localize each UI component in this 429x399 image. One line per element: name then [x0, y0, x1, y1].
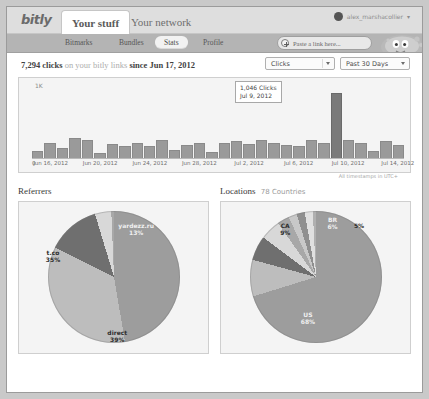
bar[interactable] — [256, 140, 267, 159]
bar[interactable] — [194, 143, 205, 159]
referrers-title-row: Referrers — [18, 186, 209, 201]
select-divider — [322, 59, 323, 68]
bar[interactable] — [219, 143, 230, 159]
clicks-summary-since: since Jun 17, 2012 — [129, 60, 195, 70]
bar[interactable] — [44, 143, 55, 159]
locations-title-row: Locations 78 Countries — [220, 186, 411, 201]
bar[interactable] — [331, 93, 342, 159]
pie-slice-label: 5% — [354, 222, 364, 230]
tooltip-date: Jul 9, 2012 — [240, 92, 277, 100]
pie-slice-label: US 68% — [301, 311, 315, 326]
clicks-bar-chart[interactable]: 1K 0 Jun 16, 2012 Jun 20, 2012 Jun 24, 2… — [18, 77, 411, 173]
bar[interactable] — [268, 143, 279, 159]
bar-chart-plot-area — [32, 90, 404, 159]
chart-tooltip: 1,046 Clicks Jul 9, 2012 — [235, 81, 282, 103]
bar[interactable] — [156, 140, 167, 159]
pie-slice-pct: 13% — [129, 229, 143, 236]
pie-slice-name: t.co — [47, 249, 60, 256]
pie-slice-label: CA 9% — [280, 222, 290, 237]
x-tick-label: Jul 14, 2012 — [381, 160, 414, 166]
timezone-note: All timestamps in UTC+ — [339, 173, 398, 179]
clicks-count: 7,294 clicks — [21, 60, 63, 70]
bar[interactable] — [393, 145, 404, 159]
date-range-select-value: Past 30 Days — [346, 60, 388, 68]
bitly-pufferfish-mascot-icon — [372, 34, 422, 53]
referrers-pie-panel[interactable]: direct 39% t.co 35% yardezz.ru 13% — [18, 201, 209, 354]
timezone-note-row: All timestamps in UTC+ — [18, 173, 411, 184]
x-tick-label: Jun 28, 2012 — [182, 160, 217, 166]
referrers-section: Referrers direct 39% t.co 35% yardezz.ru… — [18, 186, 209, 354]
x-tick-label: Jul 10, 2012 — [332, 160, 365, 166]
bar[interactable] — [181, 145, 192, 159]
chevron-down-icon: ▾ — [407, 13, 410, 20]
date-range-select[interactable]: Past 30 Days — [340, 57, 410, 70]
bar[interactable] — [306, 140, 317, 159]
plus-circle-icon — [281, 39, 289, 47]
x-axis-baseline — [32, 158, 404, 159]
clicks-summary-middle: on your bitly links — [65, 60, 128, 70]
pie-slice-name: BR — [328, 216, 337, 223]
metric-select[interactable]: Clicks — [265, 57, 335, 70]
pie-slice-pct: 39% — [110, 336, 124, 343]
locations-section: Locations 78 Countries US 68% CA 9% BR 6… — [220, 186, 411, 354]
bitly-logo[interactable]: bitly — [21, 12, 51, 27]
app-window: bitly Your stuff Your network alex_marsh… — [6, 6, 423, 393]
bar[interactable] — [243, 144, 254, 159]
metric-select-value: Clicks — [271, 60, 290, 68]
sidebar-item-bitmarks[interactable]: Bitmarks — [65, 38, 93, 47]
paste-link-input[interactable]: Paste a link here... — [277, 36, 372, 50]
tab-your-stuff[interactable]: Your stuff — [61, 10, 130, 34]
x-tick-label: Jun 20, 2012 — [83, 160, 118, 166]
pie-slice-label: t.co 35% — [46, 249, 60, 264]
tooltip-value: 1,046 Clicks — [240, 84, 277, 92]
pie-slice-label: direct 39% — [107, 329, 127, 344]
breakdown-sections: Referrers direct 39% t.co 35% yardezz.ru… — [18, 186, 411, 354]
top-navigation-bar: bitly Your stuff Your network alex_marsh… — [7, 7, 422, 34]
sidebar-item-bundles[interactable]: Bundles — [119, 38, 144, 47]
bar[interactable] — [380, 141, 391, 159]
bar[interactable] — [343, 140, 354, 159]
x-axis: 0 Jun 16, 2012 Jun 20, 2012 Jun 24, 2012… — [32, 160, 404, 170]
bar[interactable] — [281, 145, 292, 159]
pie-slice-label: BR 6% — [327, 216, 337, 231]
bar[interactable] — [82, 140, 93, 159]
pie-slice-name: US — [303, 311, 312, 318]
user-avatar-icon — [334, 12, 343, 21]
pie-slice-pct: 5% — [354, 222, 364, 229]
chart-filters: Clicks Past 30 Days — [265, 57, 410, 70]
bar[interactable] — [355, 143, 366, 159]
bar-series — [32, 90, 404, 159]
x-tick-label: Jul 2, 2012 — [234, 160, 263, 166]
account-menu[interactable]: alex_marshacollier ▾ — [334, 12, 410, 21]
bar[interactable] — [107, 144, 118, 159]
chevron-down-icon — [326, 62, 330, 65]
pie-slice-pct: 68% — [301, 318, 315, 325]
locations-country-count: 78 Countries — [261, 188, 306, 196]
pie-slice-pct: 6% — [327, 223, 337, 230]
referrers-pie-chart[interactable] — [48, 211, 180, 343]
pie-slice-name: yardezz.ru — [118, 222, 154, 229]
locations-pie-chart[interactable] — [250, 211, 382, 343]
locations-pie-panel[interactable]: US 68% CA 9% BR 6% 5% — [220, 201, 411, 354]
page-title: Locations — [220, 186, 256, 196]
x-tick-label: Jul 6, 2012 — [284, 160, 313, 166]
pie-slice-label: yardezz.ru 13% — [118, 222, 154, 237]
pie-slice-pct: 35% — [46, 256, 60, 263]
sidebar-item-profile[interactable]: Profile — [203, 38, 223, 47]
y-axis-label: 1K — [35, 82, 43, 89]
bar[interactable] — [318, 143, 329, 159]
page-title: Referrers — [18, 186, 51, 196]
sidebar-item-stats[interactable]: Stats — [155, 36, 188, 48]
sub-navigation-bar: Bitmarks Bundles Stats Profile Paste a l… — [7, 34, 422, 53]
account-name: alex_marshacollier — [347, 13, 403, 20]
pie-slice-name: direct — [107, 329, 127, 336]
bar[interactable] — [132, 143, 143, 159]
x-tick-label: Jun 24, 2012 — [132, 160, 167, 166]
stats-summary-row: 7,294 clicks on your bitly links since J… — [7, 53, 422, 77]
bar[interactable] — [231, 141, 242, 159]
clicks-summary: 7,294 clicks on your bitly links since J… — [21, 60, 195, 70]
x-tick-label: Jun 16, 2012 — [33, 160, 68, 166]
bar[interactable] — [69, 138, 80, 159]
tab-your-network[interactable]: Your network — [121, 10, 201, 34]
chevron-down-icon — [401, 62, 405, 65]
